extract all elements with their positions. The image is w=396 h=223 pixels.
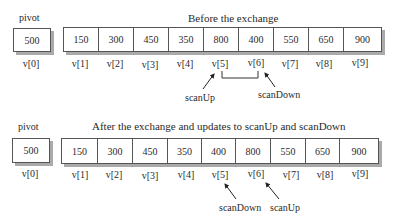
pointer-arrows xyxy=(0,0,396,223)
